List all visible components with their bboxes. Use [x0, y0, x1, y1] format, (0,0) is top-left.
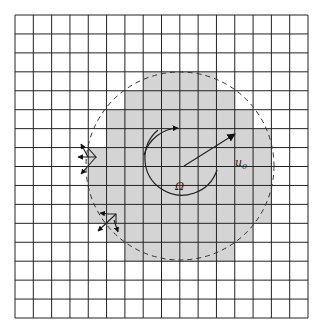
shaded-cell-row	[107, 129, 272, 148]
lattice-diagram: Ω u0	[0, 0, 323, 331]
grid-lines	[15, 15, 308, 318]
omega-label: Ω	[174, 180, 184, 193]
